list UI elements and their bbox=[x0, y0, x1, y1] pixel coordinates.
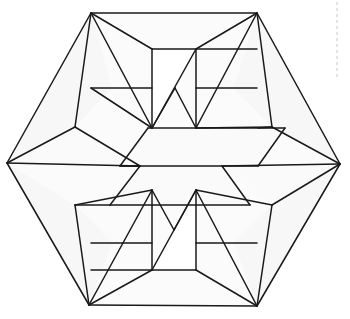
line-right-high-notch-a bbox=[258, 127, 272, 128]
line-outer-edge-s bbox=[89, 305, 257, 306]
hexagon-line-figure bbox=[0, 0, 350, 319]
face-upper-center-band bbox=[120, 128, 285, 166]
